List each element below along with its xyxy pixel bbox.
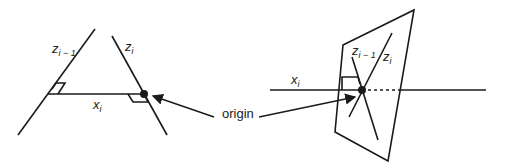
z-curr-axis-line [112,36,167,135]
origin-dot-right [358,86,366,94]
origin-arrow-right [259,97,355,117]
origin-arrow-left [153,96,214,117]
origin-label: origin [222,106,254,121]
label-z-prev-left: zi − 1 [51,41,76,58]
kinematics-diagram: zi − 1 zi xi origin zi − 1 zi xi [0,0,507,168]
origin-dot-left [140,90,148,98]
label-x-left: xi [92,97,103,114]
right-angle-marker-plane [342,77,360,90]
label-x-right: xi [290,72,301,89]
plane [335,10,414,161]
right-panel [270,10,486,161]
label-z-curr-left: zi [124,39,135,56]
left-panel [18,29,167,135]
label-z-curr-right: zi [382,49,393,66]
label-z-prev-right: zi − 1 [351,43,376,60]
right-angle-marker-left [52,83,65,94]
